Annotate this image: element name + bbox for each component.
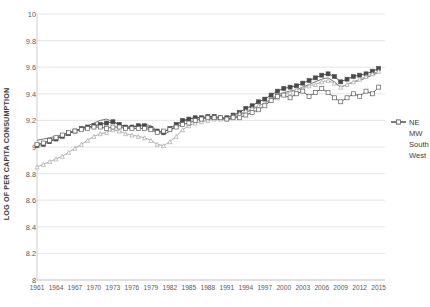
- data-point-marker: [345, 96, 349, 100]
- data-point-marker: [200, 117, 204, 121]
- legend-item-mw[interactable]: MW: [390, 128, 429, 139]
- data-point-marker: [301, 81, 305, 85]
- data-point-marker: [136, 126, 140, 130]
- data-point-marker: [351, 75, 355, 79]
- data-point-marker: [320, 86, 324, 90]
- legend-label: South: [409, 140, 429, 150]
- series-west: [35, 85, 381, 146]
- x-axis-tick-label: 2006: [314, 284, 329, 291]
- data-point-marker: [149, 128, 153, 132]
- plot-area: [0, 0, 430, 307]
- line-chart: LOG OF PER CAPITA CONSUMPTION 88.28.48.6…: [0, 0, 430, 307]
- data-point-marker: [326, 90, 330, 94]
- x-axis-tick-labels: 1961196419671970197319761979198219851988…: [0, 284, 430, 298]
- data-point-marker: [35, 142, 39, 146]
- data-point-marker: [60, 133, 64, 137]
- x-axis-tick-label: 1997: [257, 284, 272, 291]
- data-point-marker: [181, 122, 185, 126]
- data-point-marker: [231, 116, 235, 120]
- data-point-marker: [225, 117, 229, 121]
- x-axis-tick-label: 1994: [238, 284, 253, 291]
- x-axis-tick-label: 1976: [125, 284, 140, 291]
- x-axis-tick-label: 2009: [333, 284, 348, 291]
- data-point-marker: [288, 96, 292, 100]
- data-point-marker: [288, 85, 292, 89]
- x-axis-tick-label: 2012: [352, 284, 367, 291]
- data-point-marker: [370, 92, 374, 96]
- data-point-marker: [105, 126, 109, 130]
- data-point-marker: [301, 89, 305, 93]
- data-point-marker: [237, 116, 241, 120]
- data-point-marker: [79, 128, 83, 132]
- chart-legend: NEMWSouthWest: [390, 117, 429, 161]
- data-point-marker: [111, 120, 115, 124]
- data-point-marker: [67, 130, 71, 134]
- data-point-marker: [345, 77, 349, 81]
- data-point-marker: [332, 96, 336, 100]
- data-point-marker: [86, 126, 90, 130]
- data-point-marker: [275, 89, 279, 93]
- data-point-marker: [168, 128, 172, 132]
- data-point-marker: [364, 89, 368, 93]
- x-axis-tick-label: 1988: [200, 284, 215, 291]
- data-point-marker: [307, 79, 311, 83]
- data-point-marker: [124, 126, 128, 130]
- data-point-marker: [250, 110, 254, 114]
- data-point-marker: [130, 126, 134, 130]
- data-point-marker: [48, 138, 52, 142]
- data-point-marker: [73, 129, 77, 133]
- data-point-marker: [206, 116, 210, 120]
- x-axis-tick-label: 1985: [182, 284, 197, 291]
- data-point-marker: [313, 90, 317, 94]
- data-point-marker: [307, 94, 311, 98]
- data-point-marker: [345, 82, 349, 86]
- data-point-marker: [187, 121, 191, 125]
- x-axis-tick-label: 1979: [144, 284, 159, 291]
- legend-item-west[interactable]: West: [390, 150, 429, 161]
- data-point-marker: [320, 73, 324, 77]
- data-point-marker: [174, 125, 178, 129]
- x-axis-tick-label: 1973: [106, 284, 121, 291]
- x-axis-tick-label: 2015: [371, 284, 386, 291]
- data-point-marker: [111, 125, 115, 129]
- data-point-marker: [117, 125, 121, 129]
- legend-label: NE: [409, 118, 420, 128]
- x-axis-tick-label: 2003: [295, 284, 310, 291]
- x-axis-tick-label: 1967: [68, 284, 83, 291]
- data-point-marker: [181, 118, 185, 122]
- data-point-marker: [92, 125, 96, 129]
- data-point-marker: [162, 129, 166, 133]
- data-point-marker: [263, 104, 267, 108]
- data-point-marker: [326, 72, 330, 76]
- data-point-marker: [269, 98, 273, 102]
- data-point-marker: [351, 92, 355, 96]
- data-point-marker: [187, 117, 191, 121]
- data-point-marker: [41, 162, 45, 166]
- data-point-marker: [143, 126, 147, 130]
- data-point-marker: [193, 118, 197, 122]
- legend-swatch-icon: [390, 140, 407, 150]
- legend-label: MW: [409, 129, 423, 139]
- data-point-marker: [275, 94, 279, 98]
- data-point-marker: [339, 80, 343, 84]
- data-point-marker: [397, 120, 401, 124]
- x-axis-tick-label: 2000: [276, 284, 291, 291]
- x-axis-tick-label: 1970: [87, 284, 102, 291]
- data-point-marker: [92, 134, 96, 138]
- legend-swatch-icon: [390, 129, 407, 139]
- data-point-marker: [41, 141, 45, 145]
- data-point-marker: [282, 93, 286, 97]
- data-point-marker: [212, 116, 216, 120]
- data-point-marker: [339, 100, 343, 104]
- data-point-marker: [282, 86, 286, 90]
- data-point-marker: [105, 121, 109, 125]
- data-point-marker: [358, 94, 362, 98]
- data-point-marker: [98, 125, 102, 129]
- data-point-marker: [332, 75, 336, 79]
- data-point-marker: [256, 104, 260, 108]
- x-axis-tick-label: 1964: [49, 284, 64, 291]
- legend-swatch-icon: [390, 151, 407, 161]
- x-axis-tick-label: 1961: [30, 284, 45, 291]
- data-point-marker: [294, 92, 298, 96]
- legend-item-south[interactable]: South: [390, 139, 429, 150]
